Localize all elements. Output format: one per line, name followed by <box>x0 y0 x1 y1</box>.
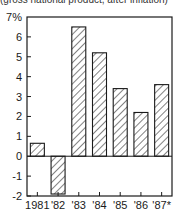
y-tick-label: 1 <box>16 130 22 142</box>
y-tick-label: 3 <box>16 91 22 103</box>
x-tick-label: '86 <box>134 199 148 211</box>
bar-85 <box>113 89 127 157</box>
y-tick-label: 7% <box>6 11 22 23</box>
x-tick-label: 1981 <box>25 199 49 211</box>
y-tick-label: 4 <box>16 71 22 83</box>
bar-84 <box>93 53 107 156</box>
x-tick-label: '87* <box>152 199 171 211</box>
bar-1981 <box>30 143 44 156</box>
x-tick-label: '82 <box>51 199 65 211</box>
y-tick-label: 2 <box>16 110 22 122</box>
bar-87 <box>155 85 169 157</box>
x-tick-label: '85 <box>113 199 127 211</box>
y-tick-label: 5 <box>16 51 22 63</box>
gnp-growth-bar-chart: -2-101234567%1981'82'83'84'85'86'87* <box>0 0 184 216</box>
bar-83 <box>72 27 86 156</box>
y-tick-label: -1 <box>12 170 22 182</box>
bar-82 <box>51 156 65 194</box>
x-tick-label: '84 <box>92 199 106 211</box>
y-tick-label: -2 <box>12 190 22 202</box>
y-tick-label: 6 <box>16 31 22 43</box>
x-tick-label: '83 <box>72 199 86 211</box>
bar-86 <box>134 112 148 156</box>
y-tick-label: 0 <box>16 150 22 162</box>
